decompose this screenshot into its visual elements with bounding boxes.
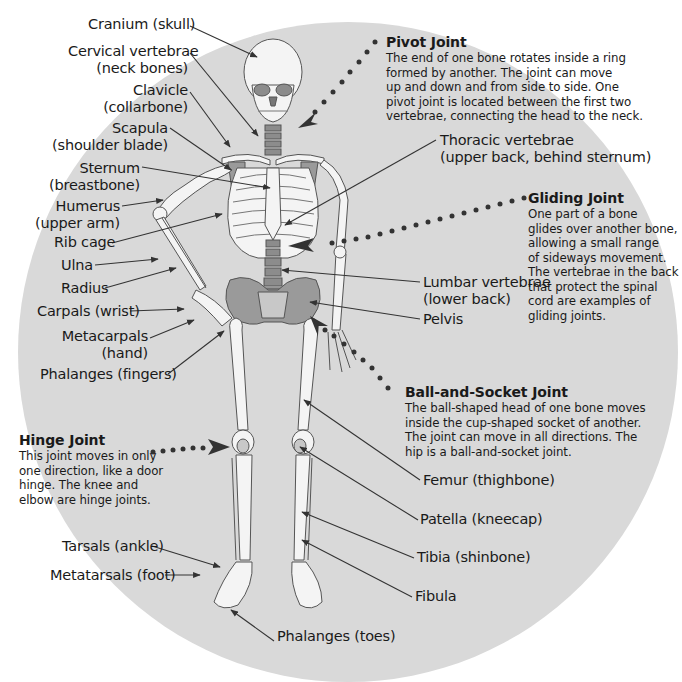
label-line: (collarbone) xyxy=(68,99,188,116)
label-line: (upper back, behind sternum) xyxy=(440,149,651,166)
joint-hinge: Hinge Joint This joint moves in only one… xyxy=(19,432,163,507)
label-line: Scapula xyxy=(40,120,168,137)
joint-description: One part of a bone glides over another b… xyxy=(528,207,678,323)
joint-description: The ball-shaped head of one bone moves i… xyxy=(405,401,646,459)
label-rib-cage: Rib cage xyxy=(54,234,115,251)
label-line: Cervical vertebrae xyxy=(68,43,188,60)
joint-pivot: Pivot Joint The end of one bone rotates … xyxy=(386,34,643,124)
label-tibia: Tibia (shinbone) xyxy=(417,549,530,566)
label-thoracic-vertebrae: Thoracic vertebrae (upper back, behind s… xyxy=(440,132,651,166)
joint-description: The end of one bone rotates inside a rin… xyxy=(386,51,643,124)
label-sternum: Sternum (breastbone) xyxy=(40,160,140,194)
label-tarsals: Tarsals (ankle) xyxy=(62,538,164,555)
label-phalanges-fingers: Phalanges (fingers) xyxy=(40,366,177,383)
label-line: Metacarpals xyxy=(48,328,148,345)
label-radius: Radius xyxy=(61,280,108,297)
joint-title: Hinge Joint xyxy=(19,432,163,449)
joint-title: Pivot Joint xyxy=(386,34,643,51)
joint-gliding: Gliding Joint One part of a bone glides … xyxy=(528,190,678,323)
joint-title: Gliding Joint xyxy=(528,190,678,207)
label-fibula: Fibula xyxy=(415,588,456,605)
label-clavicle: Clavicle (collarbone) xyxy=(68,82,188,116)
joint-description: This joint moves in only one direction, … xyxy=(19,449,163,507)
label-line: (breastbone) xyxy=(40,177,140,194)
label-ulna: Ulna xyxy=(61,257,93,274)
label-line: Sternum xyxy=(40,160,140,177)
label-line: (hand) xyxy=(48,345,148,362)
joint-title: Ball-and-Socket Joint xyxy=(405,384,646,401)
label-metatarsals: Metatarsals (foot) xyxy=(50,567,175,584)
pivot-pointer-dots xyxy=(298,40,378,129)
skull-icon xyxy=(244,39,302,122)
joint-ball-and-socket: Ball-and-Socket Joint The ball-shaped he… xyxy=(405,384,646,459)
label-scapula: Scapula (shoulder blade) xyxy=(40,120,168,154)
label-line: (upper arm) xyxy=(22,215,120,232)
label-femur: Femur (thighbone) xyxy=(423,472,555,489)
label-patella: Patella (kneecap) xyxy=(420,511,543,528)
label-cervical-vertebrae: Cervical vertebrae (neck bones) xyxy=(68,43,188,77)
label-pelvis: Pelvis xyxy=(423,311,463,328)
label-line: (neck bones) xyxy=(68,60,188,77)
label-cranium: Cranium (skull) xyxy=(88,16,195,33)
label-metacarpals: Metacarpals (hand) xyxy=(48,328,148,362)
label-line: (shoulder blade) xyxy=(40,137,168,154)
ball-socket-pointer-dots xyxy=(310,316,391,391)
label-carpals: Carpals (wrist) xyxy=(37,303,140,320)
label-humerus: Humerus (upper arm) xyxy=(22,198,120,232)
label-line: Clavicle xyxy=(68,82,188,99)
gliding-pointer-dots xyxy=(288,196,527,253)
label-phalanges-toes: Phalanges (toes) xyxy=(277,628,395,645)
label-line: Humerus xyxy=(22,198,120,215)
label-line: Thoracic vertebrae xyxy=(440,132,651,149)
